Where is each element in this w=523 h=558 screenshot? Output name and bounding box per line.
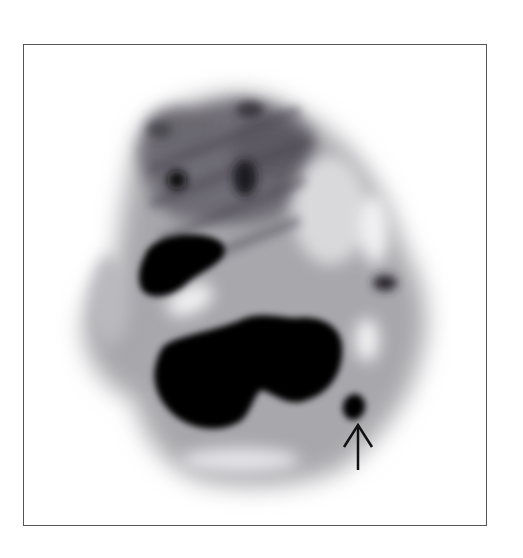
scan-image <box>0 0 523 558</box>
